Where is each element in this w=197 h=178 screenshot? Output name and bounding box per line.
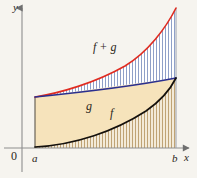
origin-label: 0 [11,150,17,162]
y-axis-label: y [13,2,18,13]
f-curve-label: f [110,107,113,119]
upper-limit-label: b [172,153,178,164]
x-axis-label: x [184,152,189,163]
g-region-label: g [86,100,92,112]
f-plus-g-curve-label: f + g [93,41,116,53]
lower-limit-label: a [32,153,38,164]
figure-canvas [0,0,197,178]
